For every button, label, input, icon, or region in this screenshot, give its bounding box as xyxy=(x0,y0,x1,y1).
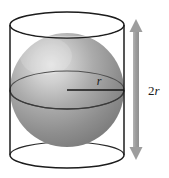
geometry-figure: r 2r xyxy=(0,0,169,178)
height-label: 2r xyxy=(148,83,161,98)
sphere-in-cylinder-svg: r 2r xyxy=(0,0,169,178)
dimension-arrow-shaft xyxy=(133,28,139,150)
sphere-highlight xyxy=(20,37,72,75)
radius-label: r xyxy=(97,74,102,88)
